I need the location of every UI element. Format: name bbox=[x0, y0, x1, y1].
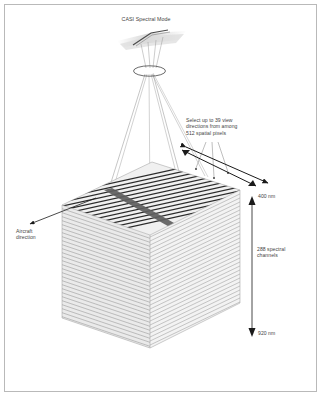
view-directions-label: Select up to 39 view directions from amo… bbox=[186, 117, 258, 136]
wavelength-axis bbox=[249, 196, 256, 337]
spectral-cube-icon bbox=[58, 154, 244, 351]
page-title: CASI Spectral Mode bbox=[86, 16, 206, 22]
wavelength-bottom-label: 920 nm bbox=[258, 330, 275, 336]
lens-aperture-icon bbox=[134, 66, 166, 76]
aircraft-icon bbox=[117, 30, 186, 50]
view-direction-leaders bbox=[195, 142, 229, 179]
wavelength-top-label: 400 nm bbox=[258, 193, 275, 199]
spectral-channels-label: 288 spectral channels bbox=[257, 246, 299, 259]
figure-root: CASI Spectral Mode Select up to 39 view … bbox=[0, 0, 322, 397]
aircraft-direction-label: Aircraft direction bbox=[16, 228, 60, 241]
